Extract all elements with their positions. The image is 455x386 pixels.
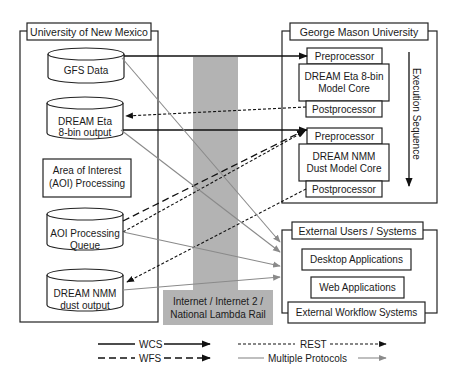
eta-core-2: Model Core <box>318 83 370 94</box>
eta-postprocessor: Postprocessor <box>312 104 377 115</box>
desktop-applications: Desktop Applications <box>310 254 403 265</box>
network-label-line2: National Lambda Rail <box>170 309 266 320</box>
architecture-diagram: Internet / Internet 2 / National Lambda … <box>0 0 455 386</box>
execution-sequence: Execution Sequence <box>409 52 422 186</box>
web-applications: Web Applications <box>319 282 396 293</box>
legend-multi-label: Multiple Protocols <box>268 353 347 364</box>
nmm-model-stack: Preprocessor DREAM NMM Dust Model Core P… <box>299 128 389 197</box>
aoi-processing-label-1: Area of Interest <box>53 165 122 176</box>
gmu-title: George Mason University <box>300 26 419 38</box>
aoi-queue-label-2: Queue <box>70 240 100 251</box>
nmm-output-label-1: DREAM NMM <box>54 288 117 299</box>
unm-title: University of New Mexico <box>30 26 148 38</box>
eta-output-label-1: DREAM Eta <box>58 116 112 127</box>
external-panel: External Users / Systems Desktop Applica… <box>282 222 437 323</box>
nmm-preprocessor: Preprocessor <box>315 131 375 142</box>
nmm-core-2: Dust Model Core <box>306 163 381 174</box>
eta-preprocessor: Preprocessor <box>315 51 375 62</box>
nmm-postprocessor: Postprocessor <box>312 184 377 195</box>
legend-wfs-label: WFS <box>139 353 162 364</box>
external-workflow-systems: External Workflow Systems <box>296 307 418 318</box>
gfs-label: GFS Data <box>64 65 109 76</box>
execution-label: Execution Sequence <box>411 68 422 160</box>
aoi-processing-box: Area of Interest (AOI) Processing <box>43 159 131 197</box>
legend-rest-label: REST <box>300 339 327 350</box>
eta-core-1: DREAM Eta 8-bin <box>305 71 384 82</box>
aoi-queue-label-1: AOI Processing <box>50 228 119 239</box>
network-label-line1: Internet / Internet 2 / <box>173 296 263 307</box>
gmu-panel: George Mason University Preprocessor DRE… <box>282 23 437 203</box>
external-title: External Users / Systems <box>299 225 417 237</box>
gfs-data-store: GFS Data <box>48 48 124 83</box>
aoi-queue-store: AOI Processing Queue <box>47 208 123 251</box>
nmm-output-store: DREAM NMM dust output <box>47 269 123 311</box>
nmm-output-label-2: dust output <box>60 300 110 311</box>
legend: WCS WFS REST Multiple Protocols <box>98 339 386 364</box>
legend-wcs-label: WCS <box>139 339 163 350</box>
nmm-core-1: DREAM NMM <box>313 151 376 162</box>
eta-output-store: DREAM Eta 8-bin output <box>47 97 123 139</box>
aoi-processing-label-2: (AOI) Processing <box>49 178 125 189</box>
eta-model-stack: Preprocessor DREAM Eta 8-bin Model Core … <box>299 48 389 117</box>
eta-output-label-2: 8-bin output <box>59 127 112 138</box>
